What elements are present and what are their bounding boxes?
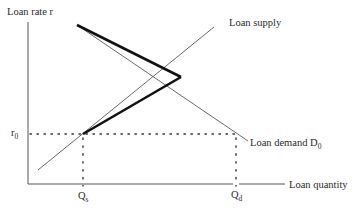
x-axis-label: Loan quantity xyxy=(289,179,348,190)
loan-demand-label: Loan demand D0 xyxy=(250,137,322,151)
loan-market-diagram: Loan rate r Loan supply Loan demand D0 L… xyxy=(0,0,353,212)
loan-demand-label-text: Loan demand D xyxy=(250,137,318,148)
supply-thick-segment xyxy=(83,77,181,134)
qd-label: Qd xyxy=(231,189,243,203)
qs-label: Qs xyxy=(78,190,89,204)
rate-r0-label: r0 xyxy=(11,127,19,141)
loan-demand-subscript: 0 xyxy=(318,142,322,151)
demand-thick-segment xyxy=(77,25,181,77)
qd-subscript: d xyxy=(239,194,243,203)
rate-r0-subscript: 0 xyxy=(15,132,19,141)
loan-supply-label: Loan supply xyxy=(229,17,282,28)
qs-subscript: s xyxy=(86,195,89,204)
y-axis-label: Loan rate r xyxy=(7,6,54,17)
